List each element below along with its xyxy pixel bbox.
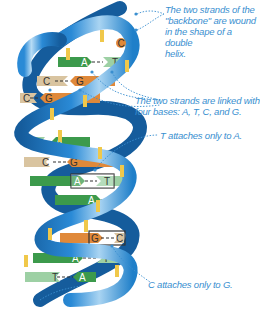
annotation-line: The two strands are linked with <box>135 95 260 106</box>
annotation-c-attaches-g: C attaches only to G. <box>148 279 258 290</box>
base-letter-g: G <box>91 233 99 244</box>
annotation-t-attaches-a: T attaches only to A. <box>160 130 260 141</box>
annotation-line: in the shape of a double <box>165 26 260 48</box>
base-letter-a: A <box>81 57 88 68</box>
base-letter-c: C <box>116 233 123 244</box>
annotation-line: four bases: A, T, C, and G. <box>135 106 260 117</box>
base-letter-g: G <box>76 76 84 87</box>
base-letter-c: C <box>23 93 30 104</box>
base-letter-a: A <box>74 176 81 187</box>
base-letter-c: C <box>43 76 50 87</box>
svg-text:C: C <box>118 38 125 49</box>
annotation-line: The two strands of the <box>165 4 260 15</box>
base-letter-g: G <box>45 93 53 104</box>
base-letter-t: T <box>52 272 58 283</box>
annotation-line: helix. <box>165 48 260 59</box>
annotation-line: C attaches only to G. <box>148 279 258 290</box>
annotation-backbone: The two strands of the "backbone" are wo… <box>165 4 260 59</box>
base-letter-a: A <box>79 272 86 283</box>
base-c-top: C <box>116 38 126 49</box>
annotation-line: "backbone" are wound <box>165 15 260 26</box>
base-pair-a-t-highlighted: A T <box>30 174 128 188</box>
annotation-bases: The two strands are linked with four bas… <box>135 95 260 117</box>
base-pair-g-c-highlighted: G C <box>60 231 125 245</box>
base-letter-c: C <box>42 157 49 168</box>
base-letter-t: T <box>104 176 110 187</box>
annotation-line: T attaches only to A. <box>160 130 260 141</box>
